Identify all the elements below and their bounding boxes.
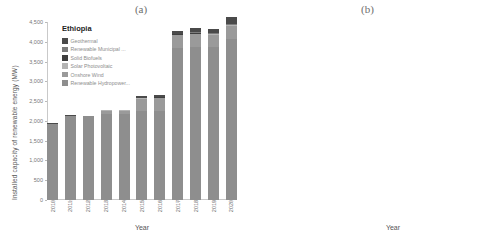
bar-segment[interactable] bbox=[208, 47, 219, 200]
panel-a-y-axis-title: Installed capacity of renewable energy (… bbox=[11, 65, 18, 200]
bar-segment[interactable] bbox=[190, 47, 201, 200]
bar-column[interactable]: 2015 bbox=[136, 22, 147, 200]
legend-swatch-icon bbox=[62, 38, 68, 44]
x-tick-mark bbox=[213, 200, 214, 203]
x-tick-mark bbox=[159, 200, 160, 203]
bar-segment[interactable] bbox=[136, 99, 147, 112]
bar-column[interactable]: 2019 bbox=[208, 22, 219, 200]
x-tick-mark bbox=[141, 200, 142, 203]
legend-swatch-icon bbox=[62, 80, 68, 86]
bar[interactable] bbox=[226, 17, 237, 200]
bar[interactable] bbox=[65, 115, 76, 200]
panel-a-legend: Ethiopia GeothermalRenewable Municipal .… bbox=[62, 24, 130, 88]
bar[interactable] bbox=[83, 116, 94, 200]
y-tick-label: 3,000 bbox=[29, 78, 43, 84]
x-tick-mark bbox=[177, 200, 178, 203]
legend-item[interactable]: Geothermal bbox=[62, 38, 130, 44]
y-tick-label: 500 bbox=[34, 177, 43, 183]
bar-column[interactable]: 2020 bbox=[226, 22, 237, 200]
bar-segment[interactable] bbox=[154, 98, 165, 111]
y-tick-mark bbox=[45, 160, 48, 161]
panel-a-legend-title: Ethiopia bbox=[62, 24, 130, 33]
legend-swatch-icon bbox=[62, 63, 68, 69]
legend-item[interactable]: Onshore Wind bbox=[62, 72, 130, 78]
x-tick-mark bbox=[70, 200, 71, 203]
legend-item-label: Renewable Hydropower... bbox=[71, 80, 130, 86]
y-tick-mark bbox=[45, 22, 48, 23]
bar-segment[interactable] bbox=[172, 35, 183, 48]
bar-segment[interactable] bbox=[226, 17, 237, 24]
legend-item[interactable]: Solid Biofuels bbox=[62, 55, 130, 61]
bar[interactable] bbox=[119, 110, 130, 200]
x-tick-mark bbox=[106, 200, 107, 203]
y-tick-mark bbox=[45, 200, 48, 201]
legend-item[interactable]: Renewable Municipal ... bbox=[62, 46, 130, 52]
bar-column[interactable]: 2017 bbox=[172, 22, 183, 200]
y-tick-label: 2,000 bbox=[29, 118, 43, 124]
legend-swatch-icon bbox=[62, 55, 68, 61]
y-tick-label: 1,500 bbox=[29, 138, 43, 144]
bar-column[interactable]: 2018 bbox=[190, 22, 201, 200]
legend-item-label: Solid Biofuels bbox=[71, 55, 102, 61]
bar[interactable] bbox=[47, 123, 58, 200]
bar-segment[interactable] bbox=[83, 116, 94, 200]
legend-item-label: Renewable Municipal ... bbox=[71, 46, 126, 52]
legend-item-label: Onshore Wind bbox=[71, 72, 104, 78]
y-tick-mark bbox=[45, 141, 48, 142]
x-tick-mark bbox=[124, 200, 125, 203]
bar-segment[interactable] bbox=[208, 35, 219, 48]
bar-segment[interactable] bbox=[119, 114, 130, 200]
y-tick-mark bbox=[45, 62, 48, 63]
x-tick-mark bbox=[88, 200, 89, 203]
y-tick-label: 0 bbox=[40, 197, 43, 203]
bar[interactable] bbox=[172, 31, 183, 200]
bar-column[interactable]: 2016 bbox=[154, 22, 165, 200]
y-tick-mark bbox=[45, 42, 48, 43]
panel-a-x-axis-title: Year bbox=[47, 224, 237, 231]
panel-a-tag: (a) bbox=[16, 3, 266, 15]
y-tick-label: 1,000 bbox=[29, 157, 43, 163]
y-tick-label: 3,500 bbox=[29, 59, 43, 65]
bar-segment[interactable] bbox=[47, 124, 58, 200]
legend-item[interactable]: Solar Photovoltaic bbox=[62, 63, 130, 69]
bar[interactable] bbox=[136, 96, 147, 200]
bar-column[interactable]: 2010 bbox=[47, 22, 58, 200]
x-tick-mark bbox=[195, 200, 196, 203]
chart-panel-b: (b) Installed capacity of solar photovol… bbox=[250, 0, 501, 238]
bar-segment[interactable] bbox=[101, 114, 112, 200]
chart-panel-a: (a) Installed capacity of renewable ener… bbox=[0, 0, 250, 238]
y-tick-mark bbox=[45, 81, 48, 82]
legend-item[interactable]: Renewable Hydropower... bbox=[62, 80, 130, 86]
bar[interactable] bbox=[101, 110, 112, 200]
legend-item-label: Geothermal bbox=[71, 38, 98, 44]
bar-segment[interactable] bbox=[136, 111, 147, 200]
x-tick-mark bbox=[52, 200, 53, 203]
bar[interactable] bbox=[208, 29, 219, 200]
figure-root: (a) Installed capacity of renewable ener… bbox=[0, 0, 501, 238]
bar[interactable] bbox=[190, 28, 201, 200]
bar-segment[interactable] bbox=[172, 48, 183, 200]
y-tick-mark bbox=[45, 121, 48, 122]
bar-segment[interactable] bbox=[226, 39, 237, 200]
panel-b-x-axis-title: Year bbox=[300, 224, 486, 231]
legend-swatch-icon bbox=[62, 47, 68, 53]
legend-item-label: Solar Photovoltaic bbox=[71, 63, 113, 69]
bar-segment[interactable] bbox=[226, 26, 237, 39]
y-tick-label: 4,000 bbox=[29, 39, 43, 45]
y-tick-label: 4,500 bbox=[29, 19, 43, 25]
x-tick-mark bbox=[231, 200, 232, 203]
y-tick-mark bbox=[45, 180, 48, 181]
y-tick-mark bbox=[45, 101, 48, 102]
legend-swatch-icon bbox=[62, 72, 68, 78]
panel-b-tag: (b) bbox=[242, 3, 493, 15]
bar-segment[interactable] bbox=[65, 116, 76, 200]
y-tick-label: 2,500 bbox=[29, 98, 43, 104]
bar[interactable] bbox=[154, 95, 165, 200]
bar-segment[interactable] bbox=[190, 34, 201, 47]
bar-segment[interactable] bbox=[154, 111, 165, 200]
